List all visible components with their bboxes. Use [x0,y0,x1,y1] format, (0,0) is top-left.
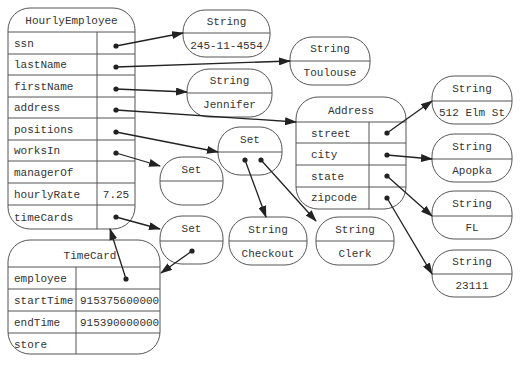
object-diagram: HourlyEmployee ssn lastName firstName ad… [0,0,520,366]
string-type-label: String [335,224,375,236]
set-type-label: Set [182,223,202,235]
set-worksin-object: Set [160,157,223,205]
field-address: address [14,102,60,114]
string-type-label: String [452,83,492,95]
string-type-label: String [207,16,247,28]
field-store: store [14,339,47,351]
timecard-object: TimeCard employee startTime 915375600000… [8,240,160,354]
string-type-label: String [452,141,492,153]
string-ssn-value: 245-11-4554 [190,40,263,52]
endtime-value: 915390000000 [80,317,159,329]
field-positions: positions [14,124,73,136]
string-street-object: String 512 Elm St [432,76,512,124]
field-zipcode: zipcode [311,192,357,204]
string-zipcode-object: String 23111 [432,250,512,297]
string-checkout-value: Checkout [242,248,295,260]
string-checkout-object: String Checkout [229,217,307,265]
field-starttime: startTime [14,295,73,307]
hourlyrate-value: 7.25 [103,189,129,201]
field-hourlyrate: hourlyRate [14,189,80,201]
hourly-employee-title: HourlyEmployee [25,15,117,27]
string-state-value: FL [465,222,478,234]
starttime-value: 915375600000 [80,295,159,307]
field-endtime: endTime [14,317,60,329]
string-state-object: String FL [432,191,512,239]
field-employee: employee [14,273,67,285]
address-object: Address street city state zipcode [296,97,406,209]
set-type-label: Set [240,134,260,146]
address-title: Address [328,105,374,117]
timecard-title: TimeCard [64,250,117,262]
field-city: city [311,149,338,161]
string-type-label: String [248,224,288,236]
set-type-label: Set [182,164,202,176]
string-type-label: String [310,43,350,55]
field-managerof: managerOf [14,167,73,179]
field-ssn: ssn [14,38,34,50]
string-lastname-object: String Toulouse [290,37,370,85]
set-positions-object: Set [218,127,282,175]
field-state: state [311,171,344,183]
field-timecards: timeCards [14,212,73,224]
string-type-label: String [210,75,250,87]
field-worksin: worksIn [14,145,60,157]
string-clerk-value: Clerk [338,248,371,260]
field-street: street [311,128,351,140]
hourly-employee-object: HourlyEmployee ssn lastName firstName ad… [8,8,135,229]
string-clerk-object: String Clerk [316,217,394,265]
string-zipcode-value: 23111 [455,280,488,292]
string-type-label: String [452,198,492,210]
set-timecards-object: Set [160,216,223,264]
field-firstname: firstName [14,81,73,93]
string-street-value: 512 Elm St [439,107,505,119]
string-ssn-object: String 245-11-4554 [183,10,270,57]
string-type-label: String [452,256,492,268]
string-city-value: Apopka [452,165,492,177]
string-city-object: String Apopka [432,134,512,182]
field-lastname: lastName [14,59,67,71]
string-lastname-value: Toulouse [304,67,357,79]
string-firstname-object: String Jennifer [187,69,272,117]
string-firstname-value: Jennifer [203,99,256,111]
